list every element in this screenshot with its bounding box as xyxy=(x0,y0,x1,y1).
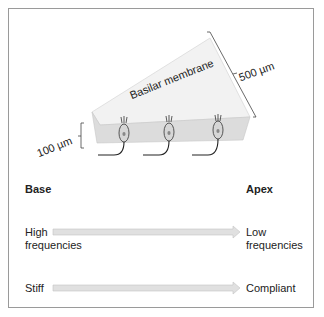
high-frequencies-label: Highfrequencies xyxy=(25,226,82,252)
base-width-bracket xyxy=(81,123,84,148)
stiffness-arrow xyxy=(53,282,240,294)
basilar-membrane-diagram xyxy=(0,0,324,317)
low-frequencies-label: Lowfrequencies xyxy=(246,226,303,252)
compliant-label: Compliant xyxy=(246,282,296,295)
base-title: Base xyxy=(25,183,51,196)
apex-title: Apex xyxy=(246,183,273,196)
stiff-label: Stiff xyxy=(25,282,44,295)
